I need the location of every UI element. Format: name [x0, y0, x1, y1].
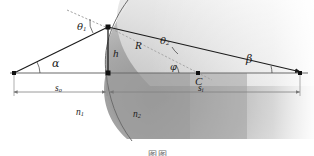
label-si-subscript: i: [202, 86, 204, 93]
label-h: h: [113, 48, 119, 59]
incident-ray: [14, 27, 108, 73]
label-theta2: θ2: [160, 36, 169, 47]
label-theta1-subscript: 1: [83, 25, 86, 32]
label-theta1: θ1: [77, 22, 86, 33]
label-n2: n2: [133, 110, 141, 120]
angle-arc-alpha: [37, 62, 40, 73]
image-point-marker: [298, 71, 302, 75]
tangent-line: [67, 10, 112, 30]
label-theta2-subscript: 2: [166, 39, 169, 46]
diagram-canvas: [0, 0, 314, 156]
label-phi: φ: [170, 62, 177, 72]
label-alpha: α: [52, 58, 59, 69]
figure-caption-cutoff: 图图: [138, 148, 178, 156]
vertex-point-marker: [106, 71, 111, 76]
label-beta: β: [246, 54, 252, 65]
optics-diagram-figure: α β θ1 θ2 φ h R C so si n1 n2 图图: [0, 0, 314, 156]
label-image-distance: si: [198, 84, 203, 94]
object-point-marker: [12, 71, 16, 75]
incidence-point-marker: [106, 25, 111, 30]
angle-arc-theta1: [90, 19, 93, 33]
label-R: R: [135, 40, 142, 51]
label-n2-subscript: 2: [138, 112, 141, 119]
label-n1-subscript: 1: [81, 110, 84, 117]
label-n1: n1: [76, 108, 84, 118]
label-so-subscript: o: [59, 86, 62, 93]
label-object-distance: so: [55, 84, 62, 94]
